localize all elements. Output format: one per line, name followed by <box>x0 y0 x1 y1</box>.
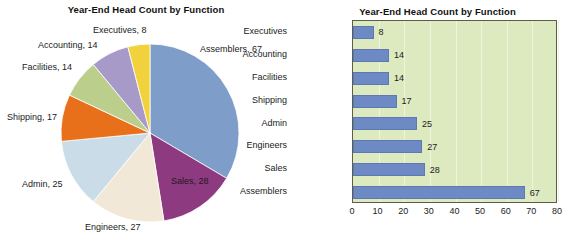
category-label-assemblers: Assemblers <box>240 180 287 203</box>
bar-assemblers <box>353 186 525 199</box>
bar-executives <box>353 26 374 39</box>
bar-row-facilities: 14 <box>353 67 558 90</box>
x-tick-70: 70 <box>521 206 541 216</box>
bar-facilities <box>353 72 389 85</box>
x-tick-10: 10 <box>368 206 388 216</box>
pie-label-facilities: Facilities, 14 <box>22 62 72 73</box>
bar-value-facilities: 14 <box>394 73 404 83</box>
pie-label-admin: Admin, 25 <box>22 179 63 190</box>
bar-row-accounting: 14 <box>353 44 558 67</box>
pie-label-executives: Executives, 8 <box>93 25 147 36</box>
bar-value-engineers: 27 <box>427 142 437 152</box>
category-label-admin: Admin <box>261 112 287 135</box>
x-tick-40: 40 <box>445 206 465 216</box>
category-label-shipping: Shipping <box>252 89 287 112</box>
bar-chart-title: Year-End Head Count by Function <box>292 6 583 17</box>
category-label-accounting: Accounting <box>242 43 287 66</box>
pie-label-sales: Sales, 28 <box>171 176 209 187</box>
category-label-executives: Executives <box>243 20 287 43</box>
bar-value-shipping: 17 <box>402 96 412 106</box>
bar-row-engineers: 27 <box>353 135 558 158</box>
bar-row-admin: 25 <box>353 113 558 136</box>
bar-accounting <box>353 49 389 62</box>
x-tick-80: 80 <box>547 206 567 216</box>
category-label-sales: Sales <box>264 157 287 180</box>
bar-chart-panel: Year-End Head Count by Function 81414172… <box>292 0 583 244</box>
x-tick-0: 0 <box>342 206 362 216</box>
category-label-engineers: Engineers <box>246 134 287 157</box>
bar-value-accounting: 14 <box>394 50 404 60</box>
bar-row-sales: 28 <box>353 158 558 181</box>
bar-sales <box>353 163 425 176</box>
bar-value-sales: 28 <box>430 165 440 175</box>
bar-engineers <box>353 140 422 153</box>
gridline-80 <box>558 21 559 202</box>
bar-row-shipping: 17 <box>353 90 558 113</box>
category-label-facilities: Facilities <box>252 66 287 89</box>
bar-admin <box>353 117 417 130</box>
x-tick-60: 60 <box>496 206 516 216</box>
bar-row-executives: 8 <box>353 21 558 44</box>
x-tick-30: 30 <box>419 206 439 216</box>
bar-value-executives: 8 <box>379 27 384 37</box>
x-tick-20: 20 <box>393 206 413 216</box>
pie-label-accounting: Accounting, 14 <box>38 40 98 51</box>
bar-chart-plot-area: 814141725272867 <box>352 20 557 203</box>
bar-value-admin: 25 <box>422 119 432 129</box>
bar-value-assemblers: 67 <box>530 188 540 198</box>
pie-label-engineers: Engineers, 27 <box>85 222 141 233</box>
pie-slices <box>61 44 239 222</box>
pie-label-shipping: Shipping, 17 <box>7 112 57 123</box>
x-tick-50: 50 <box>470 206 490 216</box>
bar-row-assemblers: 67 <box>353 181 558 204</box>
bar-shipping <box>353 95 397 108</box>
